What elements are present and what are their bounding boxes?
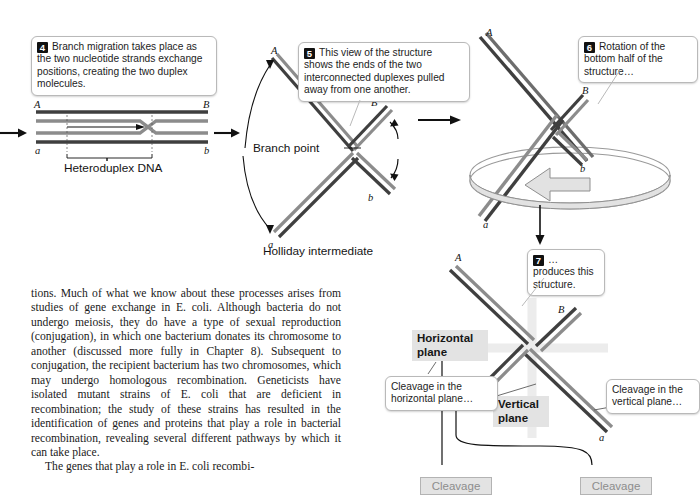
callout-step-4-text: Branch migration takes place as the two … <box>37 41 202 89</box>
strand-end-B-panel4: B <box>558 304 564 315</box>
strand-end-b-panel2: b <box>368 192 373 203</box>
callout-cleavage-vertical-text: Cleavage in the vertical plane… <box>612 384 683 407</box>
callout-step-5-number: 5 <box>304 48 315 59</box>
bottom-cleavage-box-right: Cleavage <box>580 477 652 495</box>
body-paragraph-2: The genes that play a role in E. coli re… <box>31 460 341 474</box>
callout-cleavage-horizontal: Cleavage in the horizontal plane… <box>385 376 498 411</box>
incoming-arrow-icon <box>0 129 27 138</box>
callout-cleavage-vertical: Cleavage in the vertical plane… <box>606 379 700 414</box>
callout-step-6-number: 6 <box>584 42 595 53</box>
callout-step-5-text: This view of the structure shows the end… <box>304 47 444 95</box>
horizontal-plane-label: Horizontal plane <box>412 330 488 361</box>
heteroduplex-brace <box>67 154 152 161</box>
holliday-intermediate-label: Holliday intermediate <box>263 245 373 258</box>
panel1-to-panel2-arrow-icon <box>214 129 240 138</box>
strand-end-A-panel4: A <box>455 252 461 263</box>
strand-end-b-panel1: b <box>204 145 209 156</box>
panel3-to-panel4-arrow-icon <box>536 205 545 245</box>
strand-end-a-panel3: a <box>483 219 488 230</box>
arm-a <box>274 153 358 237</box>
heteroduplex-dna-label: Heteroduplex DNA <box>64 162 162 175</box>
strand-end-a-panel1: a <box>35 145 40 156</box>
callout-step-5: 5This view of the structure shows the en… <box>298 42 470 102</box>
vertical-plane-label: Vertical plane <box>493 396 549 427</box>
callout-step-5-leader <box>348 100 378 130</box>
callout-step-7-leader <box>520 278 554 310</box>
callout-step-7-number: 7 <box>533 255 544 266</box>
pull-apart-arrow-bottom-icon <box>390 159 399 181</box>
strand-end-A-panel2: A <box>271 45 277 56</box>
branch-point-label: Branch point <box>253 142 319 155</box>
strand-end-A-panel3: A <box>486 27 492 38</box>
horizontal-plane-leader <box>428 362 436 374</box>
callout-step-4-number: 4 <box>37 42 48 53</box>
curved-arrow-upper-left-icon <box>245 60 274 148</box>
strand-end-B-panel3: B <box>582 85 588 96</box>
strand-end-A-panel1: A <box>34 99 40 110</box>
pull-apart-arrow-top-icon <box>390 119 399 139</box>
curved-arrow-lower-left-icon <box>243 156 274 234</box>
body-paragraph-1: tions. Much of what we know about these … <box>31 287 341 460</box>
arm-b-panel3 <box>553 132 587 165</box>
branch-migration-arrow-icon <box>67 124 145 130</box>
strand-end-B-panel1: B <box>203 99 209 110</box>
callout-cleavage-horizontal-text: Cleavage in the horizontal plane… <box>391 381 473 404</box>
body-text-column: tions. Much of what we know about these … <box>31 287 341 475</box>
strand-end-a-panel4: a <box>599 432 604 443</box>
callout-step-6-leader <box>596 70 636 110</box>
callout-step-4: 4Branch migration takes place as the two… <box>31 36 217 96</box>
bottom-cleavage-box-left: Cleavage <box>420 477 492 495</box>
strand-end-b-panel3: b <box>580 163 585 174</box>
